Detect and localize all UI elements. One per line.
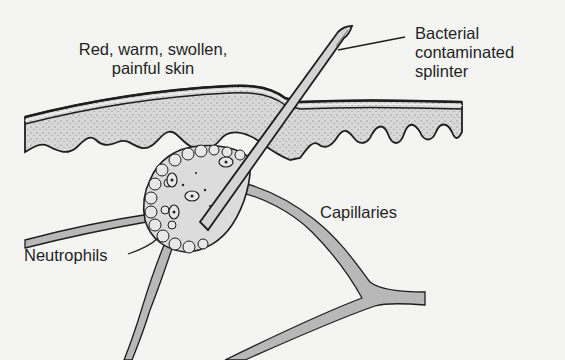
skin-layer xyxy=(25,86,462,160)
neutrophil-cluster xyxy=(144,145,251,253)
label-capillaries: Capillaries xyxy=(320,203,397,222)
label-splinter: Bacterial contaminated splinter xyxy=(415,24,514,81)
label-neutrophils: Neutrophils xyxy=(24,246,107,265)
label-skin: Red, warm, swollen, painful skin xyxy=(63,40,243,78)
